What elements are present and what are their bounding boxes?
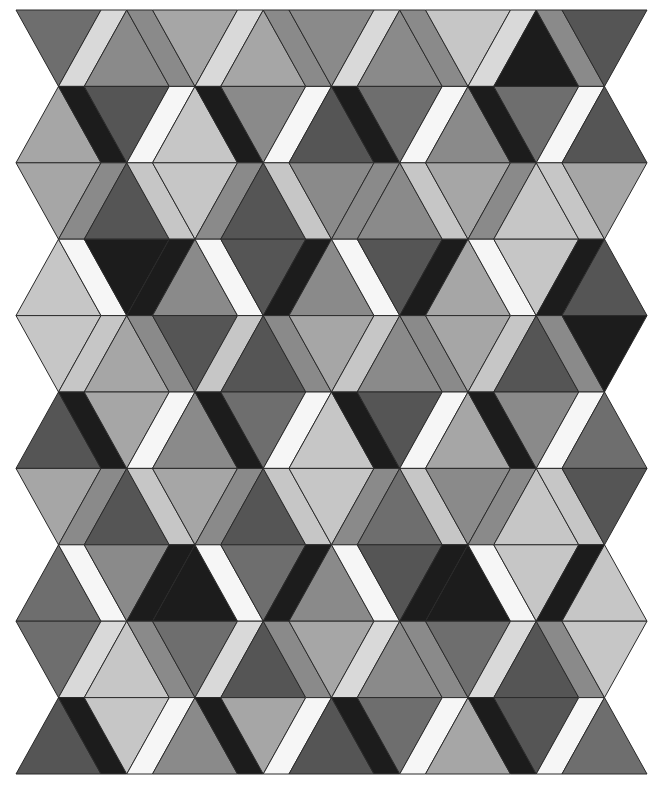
- tessellation-artwork: [0, 0, 669, 797]
